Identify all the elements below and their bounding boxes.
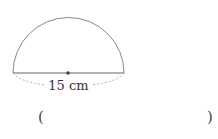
diameter-label: 15 cm	[48, 78, 88, 93]
answer-open-paren: (	[38, 108, 44, 126]
semicircle-figure: 15 cm	[0, 0, 218, 100]
dimension-dash-left	[13, 73, 46, 85]
answer-close-paren: )	[207, 108, 213, 126]
semicircle-arc	[13, 18, 124, 74]
answer-blank[interactable]	[50, 108, 205, 128]
dimension-dash-right	[91, 73, 124, 85]
center-dot	[66, 71, 70, 75]
